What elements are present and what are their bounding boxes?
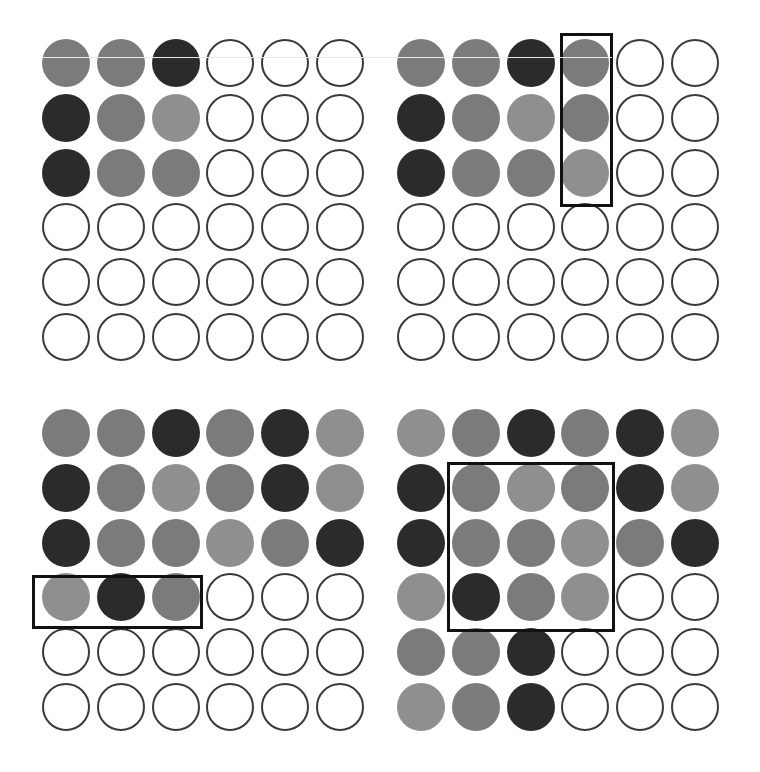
empty-circle — [507, 313, 555, 361]
filled-circle — [42, 464, 90, 512]
empty-circle — [206, 203, 254, 251]
empty-circle — [316, 149, 364, 197]
empty-circle — [97, 313, 145, 361]
filled-circle — [97, 409, 145, 457]
filled-circle — [152, 519, 200, 567]
empty-circle — [152, 683, 200, 731]
empty-circle — [152, 628, 200, 676]
filled-circle — [152, 94, 200, 142]
filled-circle — [671, 409, 719, 457]
empty-circle — [671, 683, 719, 731]
empty-circle — [616, 258, 664, 306]
filled-circle — [397, 464, 445, 512]
empty-circle — [671, 39, 719, 87]
empty-circle — [261, 149, 309, 197]
filled-circle — [261, 464, 309, 512]
filled-circle — [206, 464, 254, 512]
empty-circle — [616, 203, 664, 251]
empty-circle — [452, 258, 500, 306]
filled-circle — [397, 519, 445, 567]
empty-circle — [316, 39, 364, 87]
empty-circle — [261, 313, 309, 361]
filled-circle — [561, 409, 609, 457]
filled-circle — [97, 519, 145, 567]
empty-circle — [261, 39, 309, 87]
empty-circle — [316, 628, 364, 676]
filled-circle — [671, 519, 719, 567]
filled-circle — [397, 39, 445, 87]
filled-circle — [42, 519, 90, 567]
empty-circle — [97, 683, 145, 731]
empty-circle — [261, 258, 309, 306]
filled-circle — [97, 94, 145, 142]
filled-circle — [616, 464, 664, 512]
empty-circle — [616, 313, 664, 361]
empty-circle — [206, 258, 254, 306]
empty-circle — [452, 313, 500, 361]
filled-circle — [42, 94, 90, 142]
empty-circle — [507, 203, 555, 251]
filled-circle — [397, 628, 445, 676]
filled-circle — [97, 464, 145, 512]
filled-circle — [261, 409, 309, 457]
filled-circle — [507, 94, 555, 142]
empty-circle — [671, 149, 719, 197]
filled-circle — [507, 39, 555, 87]
filled-circle — [507, 149, 555, 197]
filled-circle — [397, 409, 445, 457]
empty-circle — [316, 258, 364, 306]
empty-circle — [316, 94, 364, 142]
filled-circle — [452, 94, 500, 142]
empty-circle — [316, 203, 364, 251]
highlight-box-bottom-left — [32, 575, 203, 629]
empty-circle — [42, 628, 90, 676]
empty-circle — [261, 683, 309, 731]
empty-circle — [261, 573, 309, 621]
empty-circle — [42, 203, 90, 251]
empty-circle — [616, 39, 664, 87]
empty-circle — [671, 628, 719, 676]
empty-circle — [507, 258, 555, 306]
filled-circle — [97, 149, 145, 197]
filled-circle — [206, 409, 254, 457]
empty-circle — [42, 258, 90, 306]
empty-circle — [42, 683, 90, 731]
empty-circle — [152, 258, 200, 306]
empty-circle — [561, 258, 609, 306]
filled-circle — [42, 149, 90, 197]
highlight-box-bottom-right — [447, 462, 615, 632]
filled-circle — [316, 464, 364, 512]
filled-circle — [397, 149, 445, 197]
empty-circle — [671, 313, 719, 361]
filled-circle — [452, 683, 500, 731]
empty-circle — [671, 203, 719, 251]
empty-circle — [616, 683, 664, 731]
empty-circle — [152, 313, 200, 361]
filled-circle — [507, 628, 555, 676]
empty-circle — [206, 94, 254, 142]
empty-circle — [261, 203, 309, 251]
filled-circle — [671, 464, 719, 512]
empty-circle — [316, 683, 364, 731]
filled-circle — [206, 519, 254, 567]
empty-circle — [671, 573, 719, 621]
filled-circle — [452, 149, 500, 197]
empty-circle — [152, 203, 200, 251]
empty-circle — [397, 203, 445, 251]
filled-circle — [452, 628, 500, 676]
empty-circle — [206, 628, 254, 676]
filled-circle — [452, 39, 500, 87]
empty-circle — [616, 94, 664, 142]
filled-circle — [42, 409, 90, 457]
empty-circle — [206, 39, 254, 87]
filled-circle — [397, 683, 445, 731]
filled-circle — [507, 409, 555, 457]
empty-circle — [397, 313, 445, 361]
filled-circle — [316, 409, 364, 457]
empty-circle — [42, 313, 90, 361]
empty-circle — [97, 628, 145, 676]
empty-circle — [206, 573, 254, 621]
highlight-box-top-right — [560, 33, 613, 207]
empty-circle — [97, 258, 145, 306]
empty-circle — [616, 149, 664, 197]
